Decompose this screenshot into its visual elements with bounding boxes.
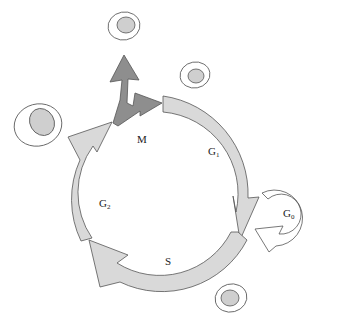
- label-g1: G1: [208, 145, 220, 159]
- label-m: M: [137, 133, 147, 145]
- large-cell-left: [9, 99, 66, 152]
- m-phase-arrow: [110, 55, 162, 126]
- label-g0: G0: [283, 207, 295, 221]
- quiescent-cell-bottom: [212, 280, 250, 315]
- daughter-cell-top: [106, 9, 142, 42]
- cell-cycle-diagram: M G1 S G2 G0: [0, 0, 337, 328]
- label-g2: G2: [99, 197, 111, 211]
- g2-phase-arrow: [68, 122, 112, 241]
- g1-phase-arrow: [163, 96, 259, 240]
- label-s: S: [165, 255, 171, 267]
- daughter-cell-right: [178, 60, 212, 91]
- g0-phase-arrow: [255, 190, 303, 252]
